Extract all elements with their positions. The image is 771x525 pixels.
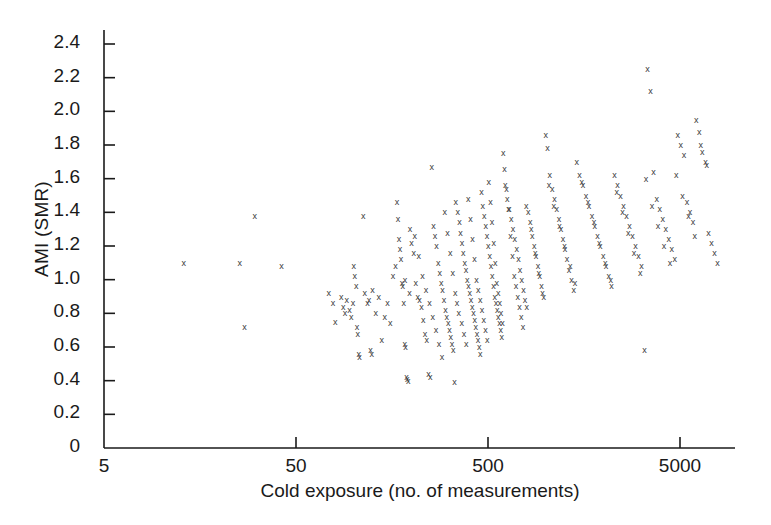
data-point-marker: x bbox=[686, 211, 691, 221]
data-point-marker: x bbox=[458, 228, 463, 238]
data-point-marker: x bbox=[448, 248, 453, 258]
data-point-marker: x bbox=[512, 271, 517, 281]
data-point-marker: x bbox=[614, 187, 619, 197]
data-point-marker: x bbox=[682, 150, 687, 160]
data-point-marker: x bbox=[487, 251, 492, 261]
data-point-marker: x bbox=[545, 143, 550, 153]
data-point-marker: x bbox=[457, 217, 462, 227]
x-tick-label: 5000 bbox=[645, 455, 715, 477]
y-tick-label: 2.4 bbox=[26, 31, 80, 53]
data-point-marker: x bbox=[391, 271, 396, 281]
data-point-marker: x bbox=[485, 335, 490, 345]
data-point-marker: x bbox=[472, 254, 477, 264]
data-point-marker: x bbox=[697, 127, 702, 137]
data-point-marker: x bbox=[562, 241, 567, 251]
data-point-marker: x bbox=[679, 140, 684, 150]
data-point-marker: x bbox=[551, 201, 556, 211]
data-point-marker: x bbox=[403, 275, 408, 285]
data-point-marker: x bbox=[603, 258, 608, 268]
data-point-marker: x bbox=[715, 258, 720, 268]
data-point-marker: x bbox=[493, 258, 498, 268]
data-point-marker: x bbox=[496, 288, 501, 298]
data-point-marker: x bbox=[462, 329, 467, 339]
data-point-marker: x bbox=[533, 248, 538, 258]
data-point-marker: x bbox=[517, 302, 522, 312]
data-point-marker: x bbox=[354, 281, 359, 291]
data-point-marker: x bbox=[279, 261, 284, 271]
data-point-marker: x bbox=[388, 318, 393, 328]
y-tick-label: 0.8 bbox=[26, 300, 80, 322]
data-point-marker: x bbox=[657, 204, 662, 214]
data-point-marker: x bbox=[451, 268, 456, 278]
data-point-marker: x bbox=[500, 318, 505, 328]
data-point-marker: x bbox=[513, 234, 518, 244]
data-point-marker: x bbox=[691, 217, 696, 227]
data-point-marker: x bbox=[370, 285, 375, 295]
data-point-marker: x bbox=[349, 312, 354, 322]
data-point-marker: x bbox=[516, 254, 521, 264]
data-point-marker: x bbox=[642, 345, 647, 355]
data-point-marker: x bbox=[674, 170, 679, 180]
data-point-marker: x bbox=[356, 329, 361, 339]
data-point-marker: x bbox=[357, 352, 362, 362]
y-tick-label: 1.2 bbox=[26, 233, 80, 255]
data-point-marker: x bbox=[345, 295, 350, 305]
data-point-marker: x bbox=[437, 339, 442, 349]
data-point-marker: x bbox=[380, 335, 385, 345]
data-point-marker: x bbox=[433, 231, 438, 241]
data-point-marker: x bbox=[456, 207, 461, 217]
data-points: xxxxxxxxxxxxxxxxxxxxxxxxxxxxxxxxxxxxxxxx… bbox=[181, 64, 720, 387]
y-tick-label: 1.4 bbox=[26, 199, 80, 221]
data-point-marker: x bbox=[455, 298, 460, 308]
data-point-marker: x bbox=[460, 238, 465, 248]
data-point-marker: x bbox=[454, 197, 459, 207]
data-point-marker: x bbox=[369, 349, 374, 359]
scatter-chart-figure: AMI (SMR) Cold exposure (no. of measurem… bbox=[0, 0, 771, 525]
data-point-marker: x bbox=[662, 241, 667, 251]
data-point-marker: x bbox=[537, 268, 542, 278]
data-point-marker: x bbox=[395, 197, 400, 207]
data-point-marker: x bbox=[709, 238, 714, 248]
data-point-marker: x bbox=[443, 207, 448, 217]
data-point-marker: x bbox=[514, 244, 519, 254]
data-point-marker: x bbox=[181, 258, 186, 268]
data-point-marker: x bbox=[502, 164, 507, 174]
data-point-marker: x bbox=[509, 214, 514, 224]
data-point-marker: x bbox=[483, 325, 488, 335]
data-point-marker: x bbox=[650, 201, 655, 211]
data-point-marker: x bbox=[586, 197, 591, 207]
data-point-marker: x bbox=[694, 115, 699, 125]
data-point-marker: x bbox=[494, 278, 499, 288]
data-point-marker: x bbox=[685, 197, 690, 207]
data-point-marker: x bbox=[468, 214, 473, 224]
data-point-marker: x bbox=[427, 298, 432, 308]
data-point-marker: x bbox=[508, 231, 513, 241]
data-point-marker: x bbox=[481, 315, 486, 325]
data-point-marker: x bbox=[544, 130, 549, 140]
data-point-marker: x bbox=[407, 288, 412, 298]
y-tick-label: 0.6 bbox=[26, 334, 80, 356]
data-point-marker: x bbox=[431, 312, 436, 322]
data-point-marker: x bbox=[339, 292, 344, 302]
data-point-marker: x bbox=[398, 244, 403, 254]
data-point-marker: x bbox=[486, 241, 491, 251]
x-tick-label: 500 bbox=[453, 455, 523, 477]
data-point-marker: x bbox=[483, 221, 488, 231]
data-point-marker: x bbox=[352, 271, 357, 281]
y-tick-label: 0 bbox=[26, 435, 80, 457]
data-point-marker: x bbox=[326, 288, 331, 298]
data-point-marker: x bbox=[466, 194, 471, 204]
data-point-marker: x bbox=[667, 234, 672, 244]
data-point-marker: x bbox=[516, 292, 521, 302]
data-point-marker: x bbox=[547, 180, 552, 190]
data-point-marker: x bbox=[506, 204, 511, 214]
data-point-marker: x bbox=[434, 325, 439, 335]
data-point-marker: x bbox=[636, 251, 641, 261]
data-point-marker: x bbox=[419, 302, 424, 312]
data-point-marker: x bbox=[529, 224, 534, 234]
data-point-marker: x bbox=[557, 221, 562, 231]
data-point-marker: x bbox=[692, 231, 697, 241]
y-tick-label: 2.0 bbox=[26, 98, 80, 120]
data-point-marker: x bbox=[597, 238, 602, 248]
data-point-marker: x bbox=[456, 308, 461, 318]
